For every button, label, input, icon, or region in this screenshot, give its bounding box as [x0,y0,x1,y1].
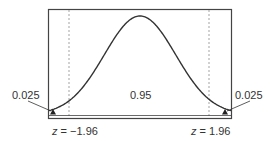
right-leader-line [227,101,250,111]
left-leader-line [28,101,51,111]
right-tail-label: 0.025 [235,89,263,101]
left-tail-label: 0.025 [12,89,40,101]
normal-distribution-plot [0,0,274,141]
left-critical-value: z = −1.96 [52,125,98,137]
plot-frame [49,10,232,119]
right-critical-value: z = 1.96 [191,125,230,137]
center-area-label: 0.95 [130,89,151,101]
